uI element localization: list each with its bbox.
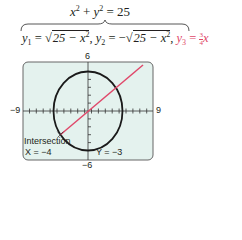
intersection-y: Y = −3	[96, 147, 122, 157]
ymax-label: 6	[85, 51, 90, 61]
ymin-label: −6	[82, 160, 92, 170]
xmax-label: 9	[156, 105, 161, 115]
intersection-title: Intersection	[24, 136, 71, 146]
intersection-x: X = −4	[25, 147, 52, 157]
xmin-label: −9	[10, 105, 20, 115]
